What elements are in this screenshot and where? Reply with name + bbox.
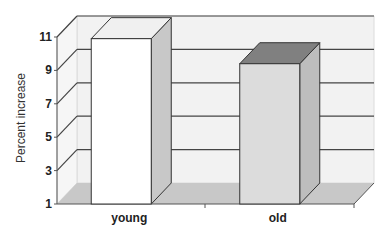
side-wall — [57, 16, 77, 204]
bar-side — [151, 18, 171, 204]
bar-old — [240, 43, 320, 204]
bar-front — [91, 39, 151, 204]
y-tick-label: 9 — [45, 63, 52, 77]
category-label: young — [111, 211, 147, 225]
y-tick-label: 11 — [39, 30, 52, 44]
y-tick-label: 3 — [45, 164, 52, 178]
bar-side — [300, 43, 320, 204]
y-tick-label: 7 — [45, 97, 52, 111]
bar-young — [91, 18, 171, 204]
category-labels: youngold — [111, 211, 287, 225]
category-label: old — [269, 211, 287, 225]
y-tick-label: 5 — [45, 130, 52, 144]
bar-front — [240, 64, 300, 204]
y-ticks: 1357911 — [39, 30, 57, 211]
y-tick-label: 1 — [45, 197, 52, 211]
bar-chart: 1357911 youngold Percent increase — [0, 0, 391, 236]
y-axis-title: Percent increase — [14, 73, 28, 163]
